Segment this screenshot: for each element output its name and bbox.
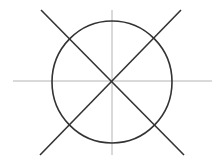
- diagonal-line-2: [40, 10, 181, 155]
- geometry-diagram: [0, 0, 217, 165]
